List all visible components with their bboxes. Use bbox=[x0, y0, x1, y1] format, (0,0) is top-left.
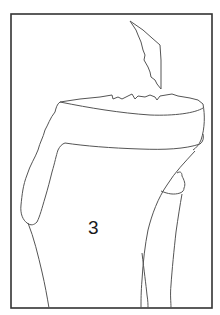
bone-fragment-outline bbox=[130, 21, 161, 89]
tibia-shaft-right bbox=[141, 151, 195, 308]
figure-frame bbox=[11, 14, 212, 308]
plateau-fracture-edge bbox=[60, 94, 203, 104]
figure-number-label: 3 bbox=[88, 218, 99, 237]
fibula-head bbox=[161, 172, 185, 194]
metaphysis-line bbox=[65, 134, 203, 149]
fibula-shaft-right bbox=[171, 194, 182, 308]
left-condyle-outline bbox=[21, 102, 65, 225]
plateau-rim bbox=[60, 102, 203, 115]
fibula-shaft-left bbox=[142, 253, 148, 308]
tibia-shaft-left bbox=[28, 223, 49, 308]
illustration-canvas bbox=[0, 0, 220, 315]
